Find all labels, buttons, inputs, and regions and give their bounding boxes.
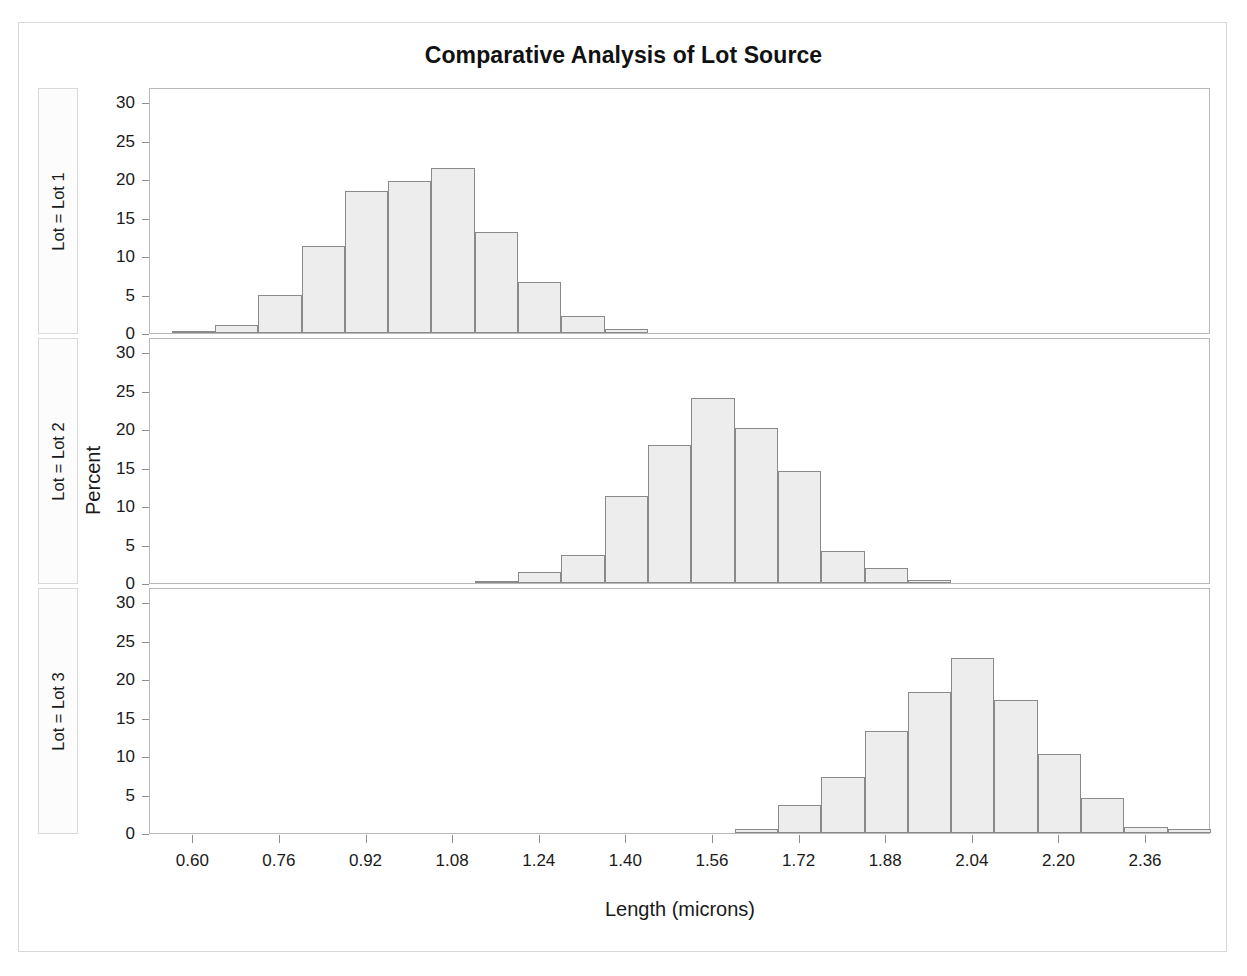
histogram-bar — [302, 246, 345, 333]
histogram-bar — [561, 316, 604, 333]
histogram-bar — [388, 181, 431, 333]
x-axis-tick-label: 0.60 — [162, 852, 222, 869]
histogram-bar — [1168, 829, 1211, 833]
histogram-bar — [518, 572, 561, 583]
histogram-bar — [951, 658, 994, 833]
y-axis-tick — [142, 757, 149, 758]
y-axis-tick-label: 30 — [101, 594, 135, 611]
y-axis-tick-label: 5 — [101, 537, 135, 554]
x-axis-tick — [712, 835, 713, 843]
y-axis-tick-label: 0 — [101, 325, 135, 342]
histogram-bar — [735, 829, 778, 833]
x-axis-tick — [366, 835, 367, 843]
y-axis-tick-label: 25 — [101, 133, 135, 150]
x-axis-tick — [539, 835, 540, 843]
y-axis-tick — [142, 603, 149, 604]
panel-label-lot-1: Lot = Lot 1 — [38, 88, 78, 334]
histogram-bar — [518, 282, 561, 334]
x-axis-tick-label: 0.76 — [249, 852, 309, 869]
y-axis-tick-label: 5 — [101, 287, 135, 304]
y-axis-tick-label: 15 — [101, 710, 135, 727]
x-axis-tick-label: 0.92 — [336, 852, 396, 869]
y-axis-tick — [142, 180, 149, 181]
y-axis-tick-label: 20 — [101, 171, 135, 188]
y-axis-tick — [142, 796, 149, 797]
x-axis-tick — [192, 835, 193, 843]
histogram-bar — [821, 777, 864, 833]
histogram-bar — [778, 805, 821, 833]
plot-area — [150, 89, 1209, 333]
x-axis-tick — [279, 835, 280, 843]
panel-label-text: Lot = Lot 1 — [49, 172, 68, 250]
histogram-bar — [172, 331, 215, 333]
histogram-panel-lot-3 — [149, 588, 1210, 834]
y-axis-tick-label: 20 — [101, 671, 135, 688]
x-axis-tick-label: 1.72 — [769, 852, 829, 869]
histogram-bar — [865, 731, 908, 833]
y-axis-tick — [142, 353, 149, 354]
panel-label-lot-3: Lot = Lot 3 — [38, 588, 78, 834]
panel-label-text: Lot = Lot 2 — [49, 422, 68, 500]
histogram-bar — [821, 551, 864, 583]
x-axis-title: Length (microns) — [150, 898, 1210, 921]
y-axis-tick — [142, 507, 149, 508]
histogram-bar — [605, 496, 648, 583]
histogram-bar — [648, 445, 691, 583]
histogram-bar — [994, 700, 1037, 833]
x-axis-tick-label: 2.36 — [1115, 852, 1175, 869]
histogram-bar — [345, 191, 388, 333]
histogram-bar — [908, 692, 951, 833]
x-axis-tick — [452, 835, 453, 843]
y-axis-tick — [142, 546, 149, 547]
y-axis-tick — [142, 834, 149, 835]
x-axis-tick — [799, 835, 800, 843]
y-axis-tick — [142, 257, 149, 258]
histogram-bar — [1124, 827, 1167, 833]
histogram-bar — [605, 329, 648, 333]
x-axis-tick-label: 1.88 — [855, 852, 915, 869]
y-axis-tick — [142, 469, 149, 470]
y-axis-tick — [142, 103, 149, 104]
plot-area — [150, 589, 1209, 833]
histogram-bar — [865, 568, 908, 583]
histogram-bar — [215, 325, 258, 333]
x-axis-tick — [625, 835, 626, 843]
x-axis-tick-label: 1.24 — [509, 852, 569, 869]
plot-area — [150, 339, 1209, 583]
x-axis-tick-label: 2.04 — [942, 852, 1002, 869]
y-axis-tick-label: 10 — [101, 248, 135, 265]
panel-label-lot-2: Lot = Lot 2 — [38, 338, 78, 584]
y-axis-tick — [142, 680, 149, 681]
y-axis-tick — [142, 430, 149, 431]
y-axis-tick-label: 25 — [101, 383, 135, 400]
page-title: Comparative Analysis of Lot Source — [0, 42, 1247, 69]
y-axis-tick-label: 10 — [101, 498, 135, 515]
histogram-bar — [475, 232, 518, 333]
y-axis-tick-label: 5 — [101, 787, 135, 804]
y-axis-tick — [142, 392, 149, 393]
x-axis-tick-label: 1.40 — [595, 852, 655, 869]
y-axis-tick-label: 25 — [101, 633, 135, 650]
y-axis-tick-label: 15 — [101, 460, 135, 477]
y-axis-tick — [142, 642, 149, 643]
histogram-bar — [908, 580, 951, 583]
y-axis-tick-label: 10 — [101, 748, 135, 765]
x-axis-tick — [885, 835, 886, 843]
panel-label-text: Lot = Lot 3 — [49, 672, 68, 750]
y-axis-tick — [142, 719, 149, 720]
histogram-panel-lot-2 — [149, 338, 1210, 584]
histogram-bar — [1038, 754, 1081, 833]
y-axis-tick — [142, 296, 149, 297]
y-axis-tick-label: 15 — [101, 210, 135, 227]
y-axis-tick — [142, 219, 149, 220]
histogram-bar — [691, 398, 734, 583]
histogram-figure: Comparative Analysis of Lot Source Perce… — [0, 0, 1247, 976]
histogram-bar — [778, 471, 821, 583]
x-axis-tick-label: 1.56 — [682, 852, 742, 869]
x-axis-tick — [1145, 835, 1146, 843]
histogram-bar — [1081, 798, 1124, 833]
y-axis-tick-label: 30 — [101, 344, 135, 361]
histogram-panel-lot-1 — [149, 88, 1210, 334]
y-axis-tick-label: 0 — [101, 825, 135, 842]
x-axis-tick-label: 2.20 — [1028, 852, 1088, 869]
